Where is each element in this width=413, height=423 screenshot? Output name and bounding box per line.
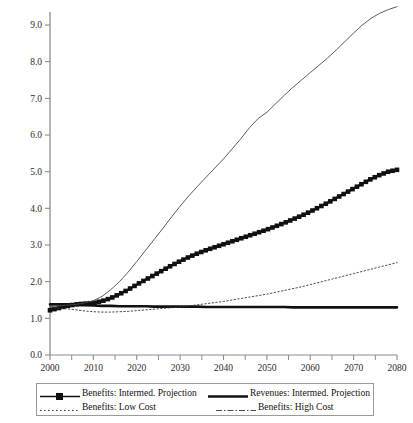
- series-marker[interactable]: [301, 212, 306, 217]
- series-marker[interactable]: [48, 308, 53, 313]
- series-marker[interactable]: [377, 173, 382, 178]
- series-marker[interactable]: [106, 297, 111, 302]
- series-marker[interactable]: [248, 233, 253, 238]
- series-marker[interactable]: [324, 201, 329, 206]
- series-marker[interactable]: [199, 250, 204, 255]
- series-marker[interactable]: [186, 255, 191, 260]
- series-marker[interactable]: [230, 239, 235, 244]
- series-marker[interactable]: [150, 274, 155, 279]
- series-marker[interactable]: [114, 293, 119, 298]
- series-marker[interactable]: [337, 194, 342, 199]
- y-tick-label[interactable]: 1.0: [30, 314, 42, 324]
- series-marker[interactable]: [328, 199, 333, 204]
- series-marker[interactable]: [239, 236, 244, 241]
- series-marker[interactable]: [257, 230, 262, 235]
- y-tick-label[interactable]: 9.0: [30, 20, 42, 30]
- series-marker[interactable]: [132, 284, 137, 289]
- plot-area: 0.01.02.03.04.05.06.07.08.09.02000201020…: [0, 0, 413, 375]
- series-marker[interactable]: [168, 264, 173, 269]
- x-tick-label[interactable]: 2040: [214, 363, 233, 373]
- x-tick-label[interactable]: 2010: [84, 363, 103, 373]
- series-line-3[interactable]: [50, 7, 397, 307]
- legend-entry-revenues-intermed[interactable]: Revenues: Intermed. Projection: [208, 386, 370, 400]
- series-marker[interactable]: [208, 246, 213, 251]
- series-marker[interactable]: [243, 234, 248, 239]
- series-marker[interactable]: [310, 208, 315, 213]
- series-marker[interactable]: [235, 237, 240, 242]
- series-marker[interactable]: [159, 269, 164, 274]
- legend-row-1: Benefits: Intermed. Projection Revenues:…: [40, 386, 370, 400]
- series-marker[interactable]: [346, 189, 351, 194]
- series-marker[interactable]: [319, 204, 324, 209]
- y-tick-label[interactable]: 8.0: [30, 57, 42, 67]
- series-line-0[interactable]: [50, 170, 397, 310]
- series-marker[interactable]: [221, 242, 226, 247]
- y-tick-label[interactable]: 0.0: [30, 350, 42, 360]
- series-marker[interactable]: [123, 289, 128, 294]
- x-tick-label[interactable]: 2000: [41, 363, 60, 373]
- series-marker[interactable]: [266, 227, 271, 232]
- series-marker[interactable]: [279, 222, 284, 227]
- series-marker[interactable]: [177, 259, 182, 264]
- series-marker[interactable]: [172, 262, 177, 267]
- series-marker[interactable]: [226, 240, 231, 245]
- x-tick-label[interactable]: 2020: [127, 363, 146, 373]
- series-marker[interactable]: [217, 243, 222, 248]
- legend-swatch-revenues-intermed: [208, 388, 248, 399]
- series-marker[interactable]: [372, 175, 377, 180]
- series-marker[interactable]: [261, 228, 266, 233]
- series-marker[interactable]: [275, 223, 280, 228]
- series-marker[interactable]: [292, 216, 297, 221]
- series-marker[interactable]: [101, 298, 106, 303]
- x-tick-label[interactable]: 2050: [257, 363, 276, 373]
- y-tick-label[interactable]: 6.0: [30, 130, 42, 140]
- legend-label-revenues-intermed: Revenues: Intermed. Projection: [250, 388, 370, 399]
- series-marker[interactable]: [368, 177, 373, 182]
- series-marker[interactable]: [359, 182, 364, 187]
- series-marker[interactable]: [270, 225, 275, 230]
- series-marker[interactable]: [110, 295, 115, 300]
- legend-entry-benefits-low-cost[interactable]: Benefits: Low Cost: [40, 400, 216, 414]
- series-marker[interactable]: [146, 276, 151, 281]
- x-tick-label[interactable]: 2030: [171, 363, 190, 373]
- series-marker[interactable]: [364, 180, 369, 185]
- series-marker[interactable]: [97, 299, 102, 304]
- series-marker[interactable]: [128, 286, 133, 291]
- series-marker[interactable]: [288, 218, 293, 223]
- series-marker[interactable]: [203, 248, 208, 253]
- series-marker[interactable]: [252, 231, 257, 236]
- series-marker[interactable]: [141, 279, 146, 284]
- y-tick-label[interactable]: 2.0: [30, 277, 42, 287]
- x-tick-label[interactable]: 2060: [301, 363, 320, 373]
- series-marker[interactable]: [355, 184, 360, 189]
- x-tick-label[interactable]: 2070: [344, 363, 363, 373]
- legend-entry-benefits-intermed[interactable]: Benefits: Intermed. Projection: [40, 386, 208, 400]
- series-marker[interactable]: [306, 210, 311, 215]
- series-marker[interactable]: [283, 220, 288, 225]
- y-tick-label[interactable]: 7.0: [30, 94, 42, 104]
- series-marker[interactable]: [332, 197, 337, 202]
- series-marker[interactable]: [163, 266, 168, 271]
- legend-entry-benefits-high-cost[interactable]: Benefits: High Cost: [216, 400, 333, 414]
- legend-swatch-benefits-low-cost: [40, 402, 80, 413]
- series-marker[interactable]: [315, 206, 320, 211]
- y-tick-label[interactable]: 3.0: [30, 240, 42, 250]
- series-marker[interactable]: [119, 291, 124, 296]
- y-tick-label[interactable]: 5.0: [30, 167, 42, 177]
- y-tick-label[interactable]: 4.0: [30, 204, 42, 214]
- series-marker[interactable]: [181, 257, 186, 262]
- x-tick-label[interactable]: 2080: [388, 363, 407, 373]
- series-marker[interactable]: [297, 214, 302, 219]
- series-marker[interactable]: [212, 245, 217, 250]
- series-marker[interactable]: [154, 271, 159, 276]
- series-marker[interactable]: [390, 168, 395, 173]
- series-marker[interactable]: [137, 281, 142, 286]
- series-marker[interactable]: [381, 171, 386, 176]
- series-marker[interactable]: [386, 169, 391, 174]
- series-marker[interactable]: [190, 253, 195, 258]
- series-marker[interactable]: [341, 192, 346, 197]
- series-marker[interactable]: [195, 251, 200, 256]
- series-marker[interactable]: [395, 168, 400, 173]
- series-marker[interactable]: [350, 187, 355, 192]
- series-line-1[interactable]: [50, 304, 397, 307]
